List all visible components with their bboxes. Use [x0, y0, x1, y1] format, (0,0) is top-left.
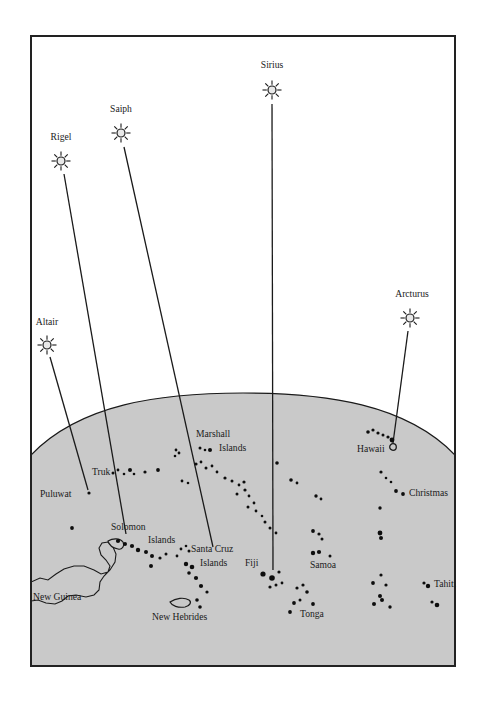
island-dot-marshall: [199, 447, 202, 450]
island-dot-ellice: [253, 502, 256, 505]
island-dot-solomon: [144, 550, 148, 554]
island-dot-truk: [123, 473, 126, 476]
star-icon: [117, 129, 125, 137]
island-dot-santa-cruz: [184, 562, 188, 566]
island-dot-hawaii: [376, 431, 379, 434]
place-label-solomon-islands-2: Islands: [148, 534, 175, 545]
island-dot-solomon: [130, 544, 134, 548]
island-dot-cooks: [379, 573, 382, 576]
island-dot-tonga: [299, 599, 302, 602]
figure-root: PuluwatTrukNew GuineaSolomonIslandsMarsh…: [0, 0, 480, 703]
island-dot-phoenix: [296, 482, 299, 485]
place-label-marshall: Marshall: [196, 428, 230, 439]
island-dot-tonga: [311, 602, 315, 606]
island-dot-fiji: [277, 570, 280, 573]
island-dot-tonga: [288, 610, 292, 614]
island-dot-solomon: [136, 548, 140, 552]
island-dot-santa-cruz: [199, 584, 203, 588]
island-dot-gilberts: [248, 495, 251, 498]
island-dot-truk: [117, 469, 120, 472]
place-label-samoa: Samoa: [310, 559, 337, 570]
island-dot-marshall: [174, 455, 177, 458]
star-label-saipn: Saiph: [110, 103, 132, 114]
island-dot-marshall: [204, 449, 207, 452]
place-label-santa-cruz: Santa Cruz: [191, 543, 233, 554]
island-dot-samoa: [321, 538, 324, 541]
island-dot-ellice: [261, 515, 264, 518]
island-dot-santa-cruz: [185, 545, 188, 548]
island-dot-line-is: [379, 470, 382, 473]
island-dot-marshall: [175, 449, 178, 452]
place-label-christmas: Christmas: [409, 487, 448, 498]
island-dot-ellice: [247, 506, 250, 509]
island-dot-marshall: [231, 480, 234, 483]
island-dot-line-is: [378, 506, 381, 509]
island-dot-tahiti: [435, 603, 440, 608]
star-label-arcturus: Arcturus: [395, 288, 429, 299]
horizon-arc: [31, 393, 455, 666]
island-dot-cooks: [378, 594, 382, 598]
island-dot-tonga: [295, 586, 298, 589]
island-dot-santa-cruz: [190, 565, 195, 570]
island-dot-cooks: [371, 581, 375, 585]
island-dot-truk: [143, 470, 146, 473]
island-dot-santa-cruz: [180, 548, 183, 551]
island-dot-tahiti: [422, 581, 425, 584]
island-dot-marshall: [238, 484, 241, 487]
star-icon: [406, 314, 414, 322]
island-dot-marshall: [200, 461, 203, 464]
island-dot-marshall: [178, 452, 181, 455]
place-label-solomon: Solomon: [111, 521, 146, 532]
island-dot-marshall: [223, 476, 226, 479]
island-dot-ellice: [269, 527, 272, 530]
island-dot-truk: [112, 472, 115, 475]
hawaii-big-island-outline: [390, 444, 397, 451]
star-label-altair: Altair: [36, 316, 59, 327]
island-dot-cooks: [388, 605, 391, 608]
island-dot-samoa: [317, 532, 320, 535]
island-dot-gilberts: [236, 493, 239, 496]
island-dot-cooks: [372, 602, 376, 606]
island-dot-phoenix: [275, 461, 279, 465]
island-dot-phoenix: [314, 494, 317, 497]
island-dot-hawaii: [390, 438, 395, 443]
island-dot-hawaii: [386, 435, 389, 438]
island-dot-solomon: [165, 553, 168, 556]
place-label-marshall-islands-2: Islands: [219, 442, 246, 453]
island-dot-gilberts: [187, 482, 190, 485]
island-dot-fiji: [260, 571, 265, 576]
island-dot-truk: [128, 468, 132, 472]
island-dot-hawaii: [382, 434, 385, 437]
island-dot-fiji: [275, 584, 278, 587]
island-dot-santa-cruz: [194, 576, 198, 580]
island-dot-marshall: [216, 471, 219, 474]
island-dot-santa-cruz: [187, 571, 191, 575]
island-dot-puluwat: [87, 491, 90, 494]
place-label-tonga: Tonga: [300, 608, 325, 619]
island-dot-new-hebrides: [198, 605, 202, 609]
island-dot-hawaii: [371, 428, 374, 431]
island-dot-santa-cruz: [176, 555, 179, 558]
star-label-rigel: Rigel: [51, 131, 72, 142]
island-dot-fiji: [269, 575, 275, 581]
place-label-puluwat: Puluwat: [40, 488, 72, 499]
island-dot-hawaii: [366, 430, 370, 434]
island-dot-fiji: [281, 582, 284, 585]
place-label-fiji: Fiji: [245, 557, 259, 568]
island-dot-samoa: [311, 529, 315, 533]
island-dot-solomon: [70, 526, 74, 530]
island-dot-line-is: [385, 477, 388, 480]
island-dot-marshall: [208, 448, 212, 452]
island-dot-tonga: [305, 590, 309, 594]
island-dot-cooks: [380, 598, 384, 602]
island-dot-phoenix: [289, 478, 293, 482]
place-label-new-guinea: New Guinea: [33, 591, 82, 602]
island-dot-solomon: [123, 542, 127, 546]
island-dot-phoenix: [320, 498, 323, 501]
island-dot-solomon: [158, 556, 161, 559]
island-dot-samoa: [329, 555, 332, 558]
island-dot-line-is: [390, 481, 393, 484]
island-dot-marshall: [194, 462, 197, 465]
island-dot-ellice: [264, 521, 267, 524]
ocean-region: [31, 393, 455, 666]
